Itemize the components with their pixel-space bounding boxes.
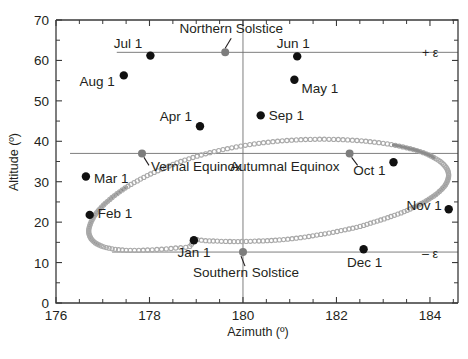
analemma-sample-dot [243,143,247,147]
analemma-sample-dot [298,236,302,240]
x-tick-label: 180 [232,308,255,323]
y-tick-label: 0 [41,296,49,311]
marker-feb-1[interactable] [86,211,94,219]
analemma-sample-dot [280,139,284,143]
x-tick-label: 178 [138,308,161,323]
marker-sep-1[interactable] [257,111,265,119]
analemma-sample-dot [359,139,363,143]
analemma-sample-dot [221,148,225,152]
plus-epsilon-label: + ε [422,46,439,60]
analemma-sample-dot [217,149,221,153]
analemma-sample-dot [276,139,280,143]
marker-may-1[interactable] [290,76,298,84]
analemma-sample-dot [234,145,238,149]
analemma-sample-dot [286,237,290,241]
label-northern-solstice: Northern Solstice [179,21,283,36]
analemma-sample-dot [164,247,168,251]
marker-southern-solstice[interactable] [239,248,247,256]
y-tick-label: 60 [34,53,49,68]
analemma-sample-dot [327,231,331,235]
marker-apr-1[interactable] [196,122,204,130]
analemma-sample-dot [318,137,322,141]
analemma-sample-dot [372,140,376,144]
marker-jan-1[interactable] [190,236,198,244]
label-aug-1: Aug 1 [80,74,115,89]
label-may-1: May 1 [301,81,338,96]
analemma-sample-dot [303,235,307,239]
analemma-sample-dot [239,144,243,148]
analemma-sample-dot [155,247,159,251]
analemma-sample-dot [225,147,229,151]
analemma-sample-dot [290,138,294,142]
analemma-sample-dot [299,138,303,142]
analemma-sample-dot [248,239,252,243]
marker-oct-1[interactable] [389,158,397,166]
label-vernal-equinox: Vernal Equinox [151,159,242,174]
analemma-sample-dot [150,248,154,252]
analemma-sample-dot [336,137,340,141]
label-apr-1: Apr 1 [160,109,192,124]
label-jul-1: Jul 1 [114,36,143,51]
label-autumnal-equinox: Autumnal Equinox [230,159,340,174]
analemma-sample-dot [257,141,261,145]
analemma-sample-dot [230,146,234,150]
leader-vernal-equinox [144,157,149,165]
analemma-sample-dot [208,151,212,155]
y-tick-label: 20 [34,215,49,230]
analemma-sample-dot [285,138,289,142]
analemma-sample-dot [199,238,203,242]
y-tick-label: 30 [34,175,49,190]
analemma-sample-dot [304,137,308,141]
marker-autumnal-equinox[interactable] [346,149,354,157]
marker-mar-1[interactable] [82,172,90,180]
analemma-sample-dot [252,142,256,146]
label-sep-1: Sep 1 [269,108,304,123]
analemma-sample-dot [381,141,385,145]
label-mar-1: Mar 1 [94,171,129,186]
y-tick-label: 10 [34,256,49,271]
analemma-sample-dot [308,137,312,141]
analemma-sample-dot [364,139,368,143]
marker-dec-1[interactable] [359,245,367,253]
label-southern-solstice: Southern Solstice [193,265,299,280]
label-jan-1: Jan 1 [177,245,210,260]
analemma-sample-dot [322,137,326,141]
analemma-sample-dot [146,248,150,252]
analemma-sample-dot [261,141,265,145]
analemma-figure: 176178180182184010203040506070 Jan 1Feb … [0,0,468,359]
analemma-sample-dot [271,140,275,144]
analemma-sample-dot [346,138,350,142]
label-oct-1: Oct 1 [353,163,385,178]
analemma-sample-dot [313,137,317,141]
leader-northern-solstice [225,38,231,48]
x-tick-label: 184 [419,308,442,323]
analemma-sample-dot [294,236,298,240]
y-tick-label: 70 [34,13,49,28]
marker-nov-1[interactable] [445,205,453,213]
x-tick-label: 182 [325,308,348,323]
analemma-chart: 176178180182184010203040506070 Jan 1Feb … [0,0,468,359]
label-jun-1: Jun 1 [277,36,310,51]
data-points [82,48,453,256]
analemma-sample-dot [341,138,345,142]
analemma-sample-dot [257,239,261,243]
analemma-sample-dot [355,138,359,142]
marker-jul-1[interactable] [146,51,154,59]
x-axis-title: Azimuth (º) [227,325,289,339]
analemma-sample-dot [290,237,294,241]
y-tick-label: 40 [34,134,49,149]
marker-vernal-equinox[interactable] [138,149,146,157]
minus-epsilon-label: – ε [422,247,438,261]
label-feb-1: Feb 1 [98,206,133,221]
analemma-sample-dot [266,140,270,144]
marker-jun-1[interactable] [293,52,301,60]
marker-aug-1[interactable] [120,71,128,79]
analemma-sample-dot [282,238,286,242]
y-axis-title: Altitude (º) [7,133,21,191]
analemma-sample-dot [169,246,173,250]
analemma-sample-dot [253,239,257,243]
marker-northern-solstice[interactable] [221,48,229,56]
analemma-sample-dot [294,138,298,142]
analemma-sample-dot [224,239,228,243]
analemma-sample-dot [160,247,164,251]
